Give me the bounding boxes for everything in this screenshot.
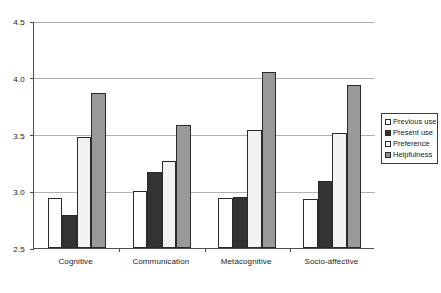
x-axis-category-label: Metacognitive (221, 257, 272, 266)
bar (133, 191, 148, 248)
bar (218, 198, 233, 248)
y-axis-tick-label: 4.5 (0, 18, 25, 27)
legend-label: Previous use (393, 118, 436, 126)
legend-label: Helpfulness (393, 151, 432, 159)
legend-swatch-icon (385, 152, 391, 158)
x-axis-tick (119, 248, 120, 252)
y-axis-tick-label: 4.0 (0, 74, 25, 83)
bar-group (48, 22, 106, 248)
bar (332, 133, 347, 248)
bar (318, 181, 333, 248)
bar-group (133, 22, 191, 248)
bar (147, 172, 162, 248)
y-axis-tick-label: 3.0 (0, 188, 25, 197)
bar (162, 161, 177, 248)
legend-swatch-icon (385, 141, 391, 147)
chart-legend: Previous usePresent usePreferenceHelpful… (381, 113, 438, 164)
legend-item: Preference (385, 139, 435, 149)
x-axis-tick (290, 248, 291, 252)
y-axis-tick (30, 22, 34, 23)
y-axis-tick (30, 78, 34, 79)
bar (176, 125, 191, 248)
bar (77, 137, 92, 248)
legend-item: Helpfulness (385, 150, 435, 160)
legend-item: Previous use (385, 117, 435, 127)
x-axis-category-label: Communication (132, 257, 189, 266)
y-axis-tick (30, 249, 34, 250)
plot-area (33, 22, 374, 249)
bar (247, 130, 262, 248)
y-axis-tick (30, 135, 34, 136)
bar-group (303, 22, 361, 248)
bar (347, 85, 362, 248)
bar (303, 199, 318, 248)
bar-chart: 2.53.03.54.04.5 CognitiveCommunicationMe… (0, 0, 441, 293)
bar (91, 93, 106, 248)
y-axis-tick-label: 3.5 (0, 131, 25, 140)
bar (262, 72, 277, 248)
bar (233, 197, 248, 248)
x-axis-category-label: Socio-affective (304, 257, 358, 266)
y-axis-tick (30, 192, 34, 193)
bar (48, 198, 63, 248)
legend-label: Preference (393, 140, 430, 148)
legend-swatch-icon (385, 119, 391, 125)
x-axis-tick (205, 248, 206, 252)
y-axis-tick-label: 2.5 (0, 245, 25, 254)
bar (62, 215, 77, 248)
legend-label: Present use (393, 129, 433, 137)
legend-swatch-icon (385, 130, 391, 136)
x-axis-category-label: Cognitive (58, 257, 92, 266)
legend-item: Present use (385, 128, 435, 138)
bar-group (218, 22, 276, 248)
